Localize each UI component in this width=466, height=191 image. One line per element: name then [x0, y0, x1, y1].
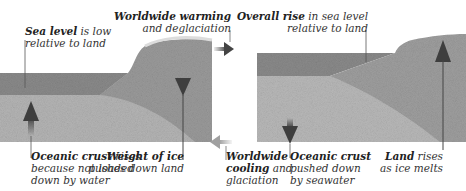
- label-bold: Weight of ice: [107, 150, 184, 162]
- label-text: by seawater: [290, 174, 355, 186]
- right-panel: [257, 30, 466, 158]
- label-bold: Land: [385, 150, 414, 162]
- label-bold: Worldwide: [226, 150, 288, 162]
- label-overall-rise: Overall rise in sea level relative to la…: [237, 10, 368, 34]
- label-text: pushes down land: [88, 162, 184, 174]
- label-text: as ice melts: [380, 162, 443, 174]
- label-text: is low: [77, 25, 111, 37]
- cooling-arrow-shaft: [218, 140, 232, 144]
- label-text: and deglaciation: [142, 22, 231, 34]
- label-text: relative to land: [25, 37, 106, 49]
- label-cooling: Worldwide cooling and glaciation: [226, 150, 292, 186]
- label-bold: cooling: [226, 162, 269, 174]
- label-text: down by water: [31, 174, 110, 186]
- label-text: and: [269, 162, 292, 174]
- label-weight-of-ice: Weight of ice pushes down land: [88, 150, 184, 174]
- transition-arrows: [210, 30, 234, 160]
- label-bold: Sea level: [25, 25, 77, 37]
- label-warming: Worldwide warming and deglaciation: [114, 10, 231, 34]
- label-text: relative to land: [287, 22, 368, 34]
- warming-arrow-icon: [224, 42, 234, 56]
- label-oceanic-crust-pushed: Oceanic crust pushed down by seawater: [290, 150, 371, 186]
- left-panel: [0, 38, 212, 160]
- label-text: in sea level: [305, 10, 368, 22]
- label-bold: Worldwide warming: [114, 10, 231, 22]
- label-sea-level-low: Sea level is low relative to land: [25, 25, 111, 49]
- label-text: pushed down: [290, 162, 361, 174]
- label-bold: Oceanic crust: [290, 150, 371, 162]
- label-text: glaciation: [226, 174, 279, 186]
- label-text: rises: [414, 150, 443, 162]
- label-bold: Overall rise: [237, 10, 305, 22]
- label-land-rises: Land rises as ice melts: [380, 150, 443, 174]
